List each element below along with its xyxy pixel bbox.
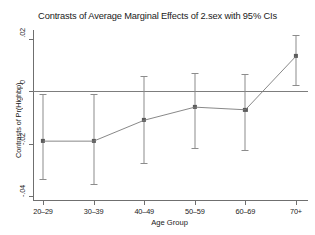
error-bar-cap [242, 150, 249, 151]
y-tick-label: 0 [18, 80, 27, 84]
y-axis-title: Contrasts of Pr(Highbp) [14, 50, 23, 190]
error-bar-cap [191, 148, 198, 149]
error-bar-cap [242, 74, 249, 75]
x-tick-label: 50–59 [185, 207, 205, 216]
data-point-marker [41, 139, 45, 143]
data-point-marker [193, 105, 197, 109]
error-bar-cap [293, 35, 300, 36]
data-point-marker [294, 54, 298, 58]
x-tick-label: 20–29 [33, 207, 53, 216]
error-bar-cap [141, 163, 148, 164]
y-axis-line [33, 30, 34, 201]
data-point-marker [91, 139, 95, 143]
x-axis-title: Age Group [33, 218, 306, 227]
zero-line [33, 91, 308, 92]
x-tick-label: 30–39 [84, 207, 104, 216]
error-bar [296, 35, 297, 85]
x-tick-label: 70+ [290, 207, 302, 216]
error-bar-cap [40, 179, 47, 180]
x-tick-label: 60–69 [236, 207, 256, 216]
x-tick-mark [245, 201, 246, 205]
x-tick-mark [94, 201, 95, 205]
error-bar-cap [90, 184, 97, 185]
error-bar [43, 94, 44, 179]
x-tick-mark [195, 201, 196, 205]
x-tick-mark [43, 201, 44, 205]
error-bar [194, 73, 195, 148]
error-bar-cap [40, 94, 47, 95]
error-bar-cap [90, 94, 97, 95]
y-tick-mark [29, 39, 33, 40]
error-bar-cap [191, 73, 198, 74]
chart-figure: Contrasts of Average Marginal Effects of… [0, 0, 315, 235]
y-tick-label: -.04 [18, 185, 27, 197]
error-bar-cap [141, 76, 148, 77]
y-tick-mark [29, 144, 33, 145]
chart-title: Contrasts of Average Marginal Effects of… [0, 11, 315, 21]
x-tick-mark [296, 201, 297, 205]
y-tick-label: -.02 [18, 133, 27, 145]
error-bar-cap [293, 85, 300, 86]
x-axis-line [33, 200, 308, 201]
data-point-marker [243, 108, 247, 112]
x-tick-label: 40–49 [134, 207, 154, 216]
data-point-marker [142, 118, 146, 122]
error-bar [245, 74, 246, 150]
y-tick-label: .02 [18, 28, 27, 38]
x-tick-mark [144, 201, 145, 205]
y-tick-mark [29, 196, 33, 197]
